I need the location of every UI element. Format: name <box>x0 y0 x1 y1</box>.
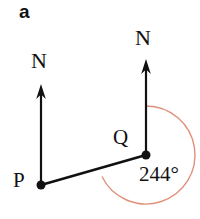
figure-canvas: a N N P Q 244° <box>0 0 200 219</box>
segment-pq <box>41 155 146 185</box>
bearing-diagram-svg <box>0 0 200 219</box>
north-label-left: N <box>31 50 47 72</box>
part-label-a: a <box>19 2 30 21</box>
point-label-q: Q <box>113 127 128 148</box>
north-label-right: N <box>135 27 151 49</box>
point-marker-q <box>142 151 151 160</box>
bearing-angle-label: 244° <box>139 164 179 185</box>
point-label-p: P <box>13 170 25 191</box>
point-marker-p <box>37 181 46 190</box>
